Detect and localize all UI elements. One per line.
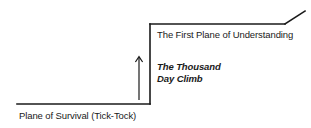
ascent-diagonal-line — [285, 11, 305, 24]
upper-plane-label: The First Plane of Understanding — [157, 29, 293, 40]
lower-plane-label: Plane of Survival (Tick-Tock) — [19, 110, 136, 121]
diagram-canvas — [0, 0, 311, 128]
climb-label-line-1: The Thousand — [157, 61, 221, 73]
climb-label: The Thousand Day Climb — [157, 61, 221, 85]
climb-arrow-icon — [135, 57, 142, 100]
climb-label-line-2: Day Climb — [157, 73, 221, 85]
step-diagram: The First Plane of Understanding The Tho… — [0, 0, 311, 128]
